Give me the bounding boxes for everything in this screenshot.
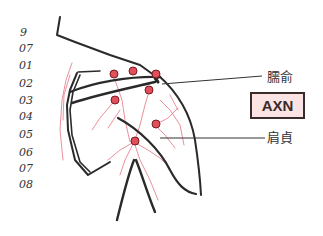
margin-number: 07 bbox=[19, 42, 33, 55]
axn-badge: AXN bbox=[251, 93, 304, 118]
acupoint-marker[interactable] bbox=[131, 137, 139, 145]
vessel-line bbox=[120, 142, 134, 175]
vessel-line bbox=[92, 100, 115, 130]
acupoint-marker[interactable] bbox=[152, 70, 160, 78]
acupoint-marker[interactable] bbox=[111, 96, 119, 104]
acupoint-marker[interactable] bbox=[152, 120, 160, 128]
outline-line bbox=[67, 73, 110, 175]
margin-number: 06 bbox=[19, 146, 33, 159]
shoulder-acupoint-diagram: 9 07 01 02 03 04 05 06 07 08 bbox=[0, 0, 323, 236]
acupoint-label-naoshu: 臑俞 bbox=[267, 69, 293, 84]
margin-number: 07 bbox=[19, 162, 33, 175]
margin-number: 03 bbox=[19, 94, 33, 107]
margin-number: 04 bbox=[19, 110, 33, 123]
leader-line-upper bbox=[162, 76, 262, 84]
vessel-line bbox=[108, 142, 134, 160]
margin-number: 05 bbox=[19, 128, 33, 141]
margin-number: 01 bbox=[19, 59, 33, 72]
margin-number-column: 9 07 01 02 03 04 05 06 07 08 bbox=[19, 26, 33, 191]
acupoint-marker[interactable] bbox=[145, 86, 153, 94]
acupoint-marker[interactable] bbox=[129, 67, 137, 75]
margin-number: 9 bbox=[20, 26, 27, 39]
acupoint-label-jianzhen: 肩貞 bbox=[267, 130, 293, 145]
vessel-line bbox=[155, 125, 175, 148]
acupoint-marker[interactable] bbox=[110, 70, 118, 78]
margin-number: 08 bbox=[19, 178, 33, 191]
margin-number: 02 bbox=[19, 77, 33, 90]
outline-line bbox=[78, 71, 100, 72]
outline-line bbox=[57, 17, 158, 78]
body-outline bbox=[57, 17, 201, 220]
axn-badge-text: AXN bbox=[262, 97, 294, 114]
outline-line bbox=[117, 160, 134, 220]
